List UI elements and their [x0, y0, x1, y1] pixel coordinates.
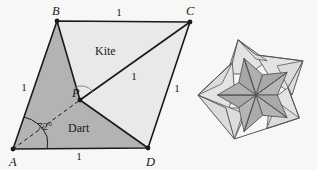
edge-label-ad: 1 — [76, 150, 82, 162]
region-label-dart: Dart — [68, 121, 90, 135]
vertex-label-a: A — [8, 155, 17, 169]
region-label-kite: Kite — [95, 44, 116, 58]
vertex-dot-b — [55, 19, 60, 24]
vertex-label-p: P — [71, 86, 80, 100]
edge-label-bc: 1 — [116, 6, 122, 18]
rhombus-diagram: B C A D P 1 1 1 1 1 Kite Dart 72° — [8, 4, 195, 169]
vertex-label-b: B — [52, 4, 60, 18]
star-tiling-diagram — [186, 23, 317, 146]
vertex-dot-d — [146, 146, 151, 151]
edge-label-pc: 1 — [131, 70, 137, 82]
edge-label-cd: 1 — [174, 82, 180, 94]
figure-container: B C A D P 1 1 1 1 1 Kite Dart 72° — [0, 0, 317, 170]
geometry-figure: B C A D P 1 1 1 1 1 Kite Dart 72° — [0, 0, 317, 170]
edge-label-ab: 1 — [21, 81, 27, 93]
vertex-dot-a — [11, 147, 16, 152]
vertex-label-c: C — [186, 4, 195, 18]
vertex-dot-c — [188, 20, 193, 25]
vertex-label-d: D — [145, 155, 155, 169]
angle-label-72: 72° — [37, 120, 52, 132]
